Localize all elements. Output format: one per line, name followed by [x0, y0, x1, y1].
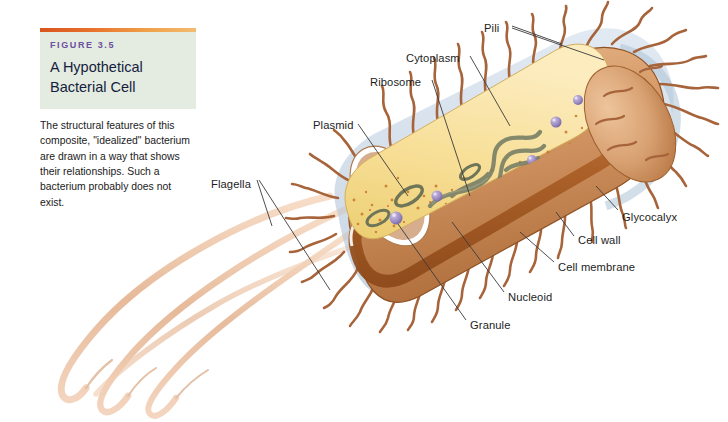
- granule: [573, 95, 583, 105]
- label-flagella: Flagella: [211, 178, 251, 190]
- label-cytoplasm: Cytoplasm: [406, 52, 460, 64]
- figure-number: FIGURE 3.5: [50, 40, 186, 50]
- label-plasmid: Plasmid: [313, 119, 354, 131]
- figure-title-line-1: A Hypothetical: [50, 59, 143, 75]
- label-glycocalyx: Glycocalyx: [622, 211, 677, 223]
- label-nucleoid: Nucleoid: [508, 291, 552, 303]
- flagella-group: [61, 196, 360, 416]
- label-granule: Granule: [470, 319, 511, 331]
- flagellum-2-tip: [128, 368, 156, 396]
- label-pili: Pili: [484, 22, 499, 34]
- flagellum-2: [100, 210, 344, 412]
- label-cell-membrane: Cell membrane: [558, 261, 635, 273]
- granule: [432, 191, 443, 202]
- pilus: [292, 184, 338, 198]
- figure-title-line-2: Bacterial Cell: [50, 79, 135, 95]
- granule: [390, 212, 403, 225]
- figure-caption-text: The structural features of this composit…: [40, 109, 202, 210]
- figure-caption-box: FIGURE 3.5 A Hypothetical Bacterial Cell…: [40, 28, 196, 210]
- flagellum-3-tip: [176, 370, 208, 398]
- label-cell-wall: Cell wall: [578, 234, 621, 246]
- pilus: [286, 216, 334, 219]
- figure-root: Pili Cytoplasm Ribosome Plasmid Flagella…: [0, 0, 728, 422]
- granule: [551, 117, 562, 128]
- caption-header: FIGURE 3.5 A Hypothetical Bacterial Cell: [40, 32, 196, 109]
- label-ribosome: Ribosome: [370, 76, 421, 88]
- figure-title: A Hypothetical Bacterial Cell: [50, 58, 186, 97]
